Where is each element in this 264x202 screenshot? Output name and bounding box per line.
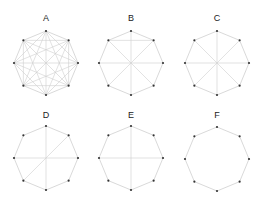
graph-vertex — [248, 62, 250, 64]
graph-edge — [185, 159, 194, 182]
graph-edge — [194, 86, 217, 95]
graph-edge — [99, 40, 108, 63]
graph-edge — [46, 126, 69, 135]
graph-edge — [185, 40, 194, 63]
graph-vertex — [153, 85, 155, 87]
graph-vertex — [107, 180, 109, 182]
graph-vertex — [130, 94, 132, 96]
graph-vertex — [130, 125, 132, 127]
graph-vertex — [13, 157, 15, 159]
graph-vertex — [130, 30, 132, 32]
graph-vertex — [98, 157, 100, 159]
graph-vertex — [216, 126, 218, 128]
graph-edge — [240, 63, 249, 86]
vertices-f — [184, 126, 250, 192]
graph-edge — [14, 135, 23, 158]
panel-f: F — [184, 110, 250, 192]
graph-vertex — [22, 85, 24, 87]
graph-vertex — [22, 134, 24, 136]
graph-edge — [154, 63, 163, 86]
graph-edge — [217, 182, 240, 191]
graph-edge — [108, 181, 131, 190]
graph-vertex — [162, 62, 164, 64]
graph-vertex — [248, 158, 250, 160]
panel-d: D — [13, 110, 79, 191]
graph-edge — [14, 158, 23, 181]
graph-vertex — [13, 62, 15, 64]
graph-vertex — [45, 189, 47, 191]
graph-edge — [99, 63, 108, 86]
graph-vertex — [193, 39, 195, 41]
graph-edge — [131, 126, 154, 135]
graph-vertex — [77, 157, 79, 159]
graph-vertex — [107, 134, 109, 136]
panel-b: B — [98, 13, 164, 96]
graph-vertex — [107, 39, 109, 41]
graph-vertex — [68, 180, 70, 182]
graph-edge — [99, 158, 108, 181]
graph-vertex — [68, 39, 70, 41]
graph-vertex — [239, 135, 241, 137]
graph-vertex — [68, 134, 70, 136]
panel-label-a: A — [43, 13, 49, 23]
graph-vertex — [77, 62, 79, 64]
graph-edge — [185, 63, 194, 86]
graph-vertex — [162, 157, 164, 159]
graph-edge — [194, 182, 217, 191]
graph-edge — [217, 86, 240, 95]
graph-edge — [23, 181, 46, 190]
graph-edge — [154, 135, 163, 158]
panel-label-b: B — [128, 13, 134, 23]
graph-vertex — [45, 94, 47, 96]
graph-vertex — [22, 180, 24, 182]
graph-edge — [194, 31, 217, 40]
graph-edge — [217, 127, 240, 136]
graph-edge — [194, 127, 217, 136]
panel-c: C — [184, 13, 250, 96]
graph-edge — [108, 126, 131, 135]
graph-vertex — [153, 134, 155, 136]
graph-edge — [108, 31, 131, 40]
graph-vertex — [184, 158, 186, 160]
graph-edge — [46, 181, 69, 190]
graph-vertex — [193, 181, 195, 183]
graph-edge — [240, 136, 249, 159]
graph-edge — [154, 158, 163, 181]
graph-edge — [131, 31, 154, 40]
graph-vertex — [184, 62, 186, 64]
panel-label-f: F — [214, 110, 220, 120]
graph-vertex — [216, 30, 218, 32]
graph-edge — [23, 126, 46, 135]
graph-edge — [217, 31, 240, 40]
graph-edge — [185, 136, 194, 159]
panel-label-d: D — [43, 110, 50, 120]
graph-vertex — [216, 190, 218, 192]
graph-vertex — [239, 39, 241, 41]
graph-edge — [108, 86, 131, 95]
graph-figure: A B C D E F — [0, 0, 264, 202]
panel-label-e: E — [128, 110, 134, 120]
graph-edge — [131, 181, 154, 190]
graph-edge — [240, 40, 249, 63]
graph-vertex — [45, 30, 47, 32]
graph-edge — [99, 135, 108, 158]
graph-vertex — [153, 39, 155, 41]
graph-edge — [69, 135, 78, 158]
graph-vertex — [153, 180, 155, 182]
graph-vertex — [193, 85, 195, 87]
graph-vertex — [193, 135, 195, 137]
graph-edge — [69, 158, 78, 181]
graph-vertex — [130, 189, 132, 191]
graph-edge — [240, 159, 249, 182]
graph-vertex — [216, 94, 218, 96]
panel-a: A — [13, 13, 79, 96]
graph-vertex — [22, 39, 24, 41]
graph-vertex — [68, 85, 70, 87]
graph-vertex — [239, 181, 241, 183]
graph-edge — [131, 86, 154, 95]
graph-vertex — [45, 125, 47, 127]
graph-vertex — [107, 85, 109, 87]
graph-edge — [154, 40, 163, 63]
graph-vertex — [239, 85, 241, 87]
panel-e: E — [98, 110, 164, 191]
